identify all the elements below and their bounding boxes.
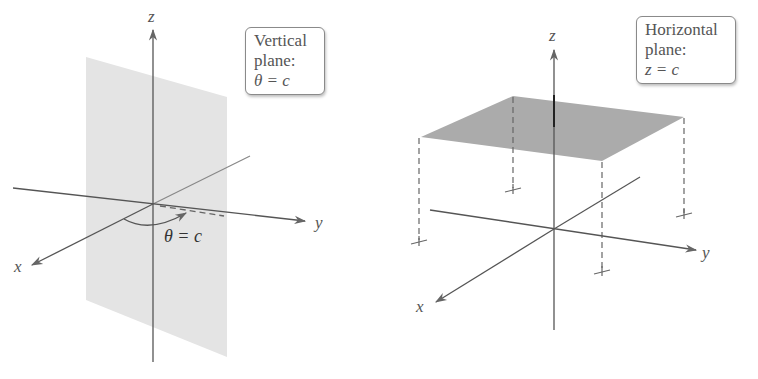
x-axis — [436, 229, 554, 302]
vertical-plane — [86, 57, 227, 357]
horizontal-plane-callout: Horizontal plane: z = c — [636, 16, 736, 84]
z-axis-label: z — [548, 26, 556, 45]
callout-line-2: plane: — [645, 40, 729, 60]
x-axis-label: x — [13, 257, 22, 276]
z-axis-label: z — [147, 7, 155, 26]
x-axis-label: x — [415, 297, 424, 316]
vertical-plane-callout: Vertical plane: θ = c — [245, 27, 325, 95]
y-axis — [430, 210, 696, 250]
callout-line-2: plane: — [254, 51, 318, 71]
horizontal-plane — [421, 96, 684, 161]
callout-line-1: Horizontal — [645, 20, 729, 40]
y-axis-label: y — [313, 213, 323, 232]
back-axis-line — [554, 177, 640, 229]
angle-label: θ = c — [164, 226, 202, 247]
callout-line-1: Vertical — [254, 31, 318, 51]
y-axis-label: y — [700, 243, 710, 262]
callout-equation: z = c — [645, 60, 729, 80]
callout-equation: θ = c — [254, 71, 318, 91]
